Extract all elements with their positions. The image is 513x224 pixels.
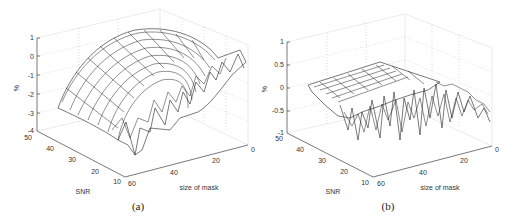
caption-a: (a) xyxy=(132,200,145,213)
z-tick-label: 0.5 xyxy=(274,61,284,68)
z-ticks: 1 0 -1 -2 -3 -4 xyxy=(28,34,40,134)
snr-tick-label: 30 xyxy=(318,157,326,164)
mask-axis xyxy=(373,146,492,177)
caption-b: (b) xyxy=(382,200,395,213)
snr-axis-label: SNR xyxy=(326,188,341,195)
box-bottom-back xyxy=(287,106,492,146)
box-top-back xyxy=(287,14,492,48)
snr-tick-label: 10 xyxy=(113,178,121,185)
surface-mesh-a xyxy=(58,29,246,155)
snr-tick-label: 20 xyxy=(91,168,99,175)
mask-ticks: 60 40 20 0 xyxy=(128,146,255,187)
mask-tick-label: 60 xyxy=(128,180,136,187)
mask-axis-label: size of mask xyxy=(180,184,219,191)
mask-tick-label: 40 xyxy=(170,169,178,176)
snr-tick-label: 30 xyxy=(68,156,76,163)
mask-ticks: 60 40 20 0 xyxy=(377,146,499,187)
mask-tick-label: 0 xyxy=(495,146,499,153)
z-tick-label: -2 xyxy=(28,91,34,98)
surface-plot-a: 1 0 -1 -2 -3 -4 % 50 40 30 20 10 SNR 60 … xyxy=(13,9,255,213)
snr-axis-label: SNR xyxy=(76,188,91,195)
snr-tick-label: 50 xyxy=(24,134,32,141)
mask-axis xyxy=(125,145,248,177)
z-tick-label: -0.5 xyxy=(272,107,284,114)
z-tick-label: 0 xyxy=(30,53,34,60)
snr-tick-label: 40 xyxy=(46,145,54,152)
mask-tick-label: 20 xyxy=(212,157,220,164)
mask-axis-label: size of mask xyxy=(421,184,460,191)
mask-tick-label: 60 xyxy=(377,180,385,187)
snr-axis xyxy=(287,133,373,177)
snr-tick-label: 40 xyxy=(296,146,304,153)
mask-tick-label: 20 xyxy=(460,157,468,164)
snr-axis xyxy=(37,131,125,177)
z-tick-label: -1 xyxy=(28,72,34,79)
z-tick-label: -4 xyxy=(28,127,34,134)
snr-tick-label: 20 xyxy=(340,168,348,175)
surface-mesh-b xyxy=(308,62,490,140)
snr-ticks: 50 40 30 20 10 xyxy=(275,135,369,186)
mask-tick-label: 40 xyxy=(419,169,427,176)
mask-tick-label: 0 xyxy=(251,146,255,153)
snr-tick-label: 10 xyxy=(361,179,369,186)
surface-plot-b: 1 0.5 0 -0.5 -1 % 50 40 30 20 10 SNR 60 … xyxy=(261,14,499,213)
z-tick-label: 1 xyxy=(280,38,284,45)
z-tick-label: -3 xyxy=(28,110,34,117)
z-axis-label: % xyxy=(261,86,268,92)
snr-ticks: 50 40 30 20 10 xyxy=(24,134,121,185)
z-tick-label: 1 xyxy=(30,34,34,41)
snr-tick-label: 50 xyxy=(275,135,283,142)
figure: 1 0 -1 -2 -3 -4 % 50 40 30 20 10 SNR 60 … xyxy=(0,0,513,224)
z-tick-label: 0 xyxy=(280,84,284,91)
z-axis-label: % xyxy=(13,85,20,91)
